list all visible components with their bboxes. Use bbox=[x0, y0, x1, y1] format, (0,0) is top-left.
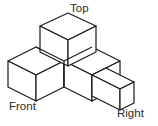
isometric-cubes-figure: Top Front Right bbox=[0, 0, 158, 126]
label-top: Top bbox=[70, 2, 89, 14]
cube-group-right bbox=[92, 68, 134, 110]
label-right: Right bbox=[117, 107, 144, 119]
label-front: Front bbox=[9, 100, 36, 112]
